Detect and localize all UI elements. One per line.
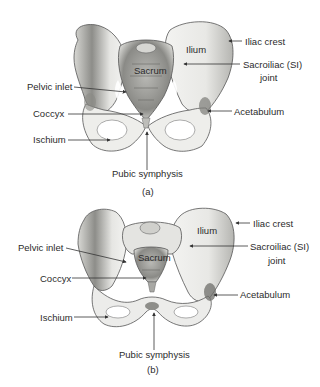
label-iliac-crest-a: Iliac crest xyxy=(245,36,285,47)
pelvis-diagram: Iliac crest Ilium Sacroiliac (SI) joint … xyxy=(0,0,320,387)
label-ischium-b: Ischium xyxy=(40,312,73,323)
label-ischium-a: Ischium xyxy=(33,134,66,145)
label-ilium-a: Ilium xyxy=(186,44,206,55)
label-ilium-b: Ilium xyxy=(197,225,217,236)
label-acetabulum-a: Acetabulum xyxy=(234,106,284,117)
label-pubic-symphysis-a: Pubic symphysis xyxy=(112,168,183,179)
label-pelvic-inlet-b: Pelvic inlet xyxy=(18,242,63,253)
pelvis-a xyxy=(74,22,233,152)
label-pelvic-inlet-a: Pelvic inlet xyxy=(27,81,72,92)
caption-a: (a) xyxy=(142,186,154,197)
label-sacroiliac-joint-b: joint xyxy=(268,255,285,266)
label-coccyx-a: Coccyx xyxy=(33,108,64,119)
label-sacrum-a: Sacrum xyxy=(134,65,167,76)
label-iliac-crest-b: Iliac crest xyxy=(253,218,293,229)
label-sacroiliac-a: Sacroiliac (SI) xyxy=(243,59,302,70)
label-acetabulum-b: Acetabulum xyxy=(240,289,290,300)
label-coccyx-b: Coccyx xyxy=(40,273,71,284)
caption-b: (b) xyxy=(147,364,159,375)
label-pubic-symphysis-b: Pubic symphysis xyxy=(119,349,190,360)
label-sacrum-b: Sacrum xyxy=(138,252,171,263)
label-sacroiliac-b: Sacroiliac (SI) xyxy=(250,241,309,252)
label-sacroiliac-joint-a: joint xyxy=(260,72,277,83)
